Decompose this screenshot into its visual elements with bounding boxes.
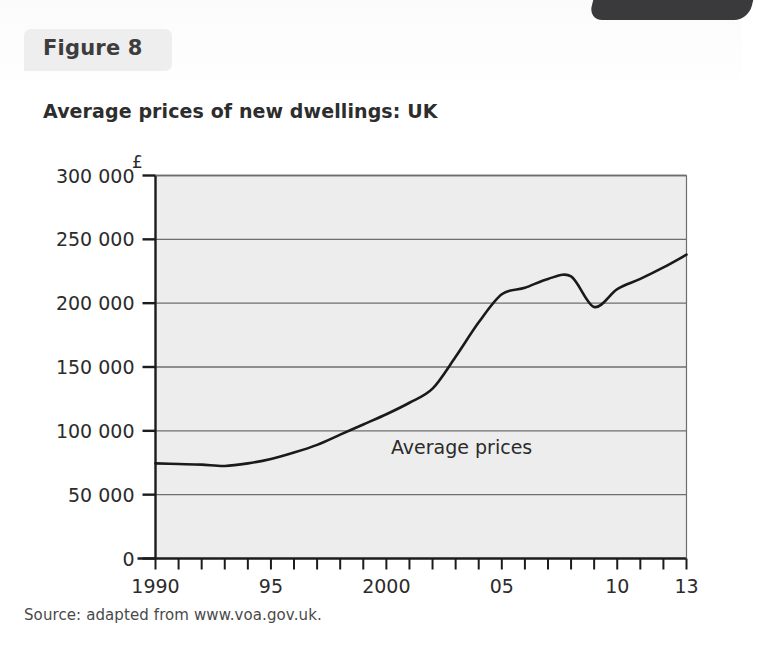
x-axis-ticks	[156, 559, 687, 570]
y-axis-ticks	[143, 176, 156, 559]
svg-text:200 000: 200 000	[56, 292, 135, 314]
svg-text:250 000: 250 000	[56, 228, 135, 250]
svg-text:Average prices: Average prices	[391, 436, 532, 458]
svg-text:1990: 1990	[131, 575, 179, 597]
svg-text:50 000: 50 000	[68, 484, 134, 506]
y-axis-unit-label: £	[132, 152, 143, 172]
chart-title: Average prices of new dwellings: UK	[43, 100, 438, 122]
svg-text:10: 10	[605, 575, 629, 597]
figure-label: Figure 8	[43, 36, 143, 60]
series-average-prices	[156, 255, 687, 466]
svg-text:£: £	[132, 152, 143, 172]
page-corner-tab	[588, 0, 758, 20]
plot-background	[156, 176, 687, 559]
svg-text:05: 05	[490, 575, 514, 597]
svg-text:0: 0	[122, 548, 134, 570]
gridlines	[156, 176, 687, 495]
svg-text:95: 95	[259, 575, 283, 597]
series-annotation-label: Average prices	[391, 436, 532, 458]
y-axis-tick-labels: 050 000100 000150 000200 000250 000300 0…	[56, 165, 135, 570]
svg-text:100 000: 100 000	[56, 420, 135, 442]
svg-text:150 000: 150 000	[56, 356, 135, 378]
axis-lines	[138, 176, 687, 559]
source-note: Source: adapted from www.voa.gov.uk.	[24, 606, 322, 624]
svg-text:300 000: 300 000	[56, 165, 135, 187]
svg-text:13: 13	[674, 575, 698, 597]
svg-text:2000: 2000	[362, 575, 410, 597]
x-axis-tick-labels: 1990952000051013	[131, 575, 698, 597]
